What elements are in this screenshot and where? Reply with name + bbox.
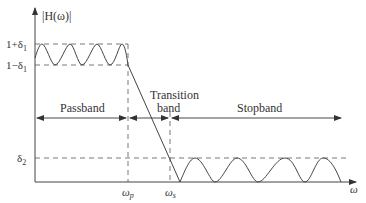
- ws-label: ωs: [165, 186, 176, 200]
- wp-label: ωp: [122, 186, 134, 200]
- upper-pass-label: 1+δ1: [6, 38, 27, 53]
- lower-pass-label: 1−δ1: [6, 59, 27, 74]
- filter-spec-diagram: |H(ω)| 1+δ1 1−δ1 δ2 ωp ωs ω Passband Tra…: [0, 0, 366, 203]
- y-axis-label: |H(ω)|: [42, 9, 71, 23]
- x-axis-label: ω: [350, 183, 358, 195]
- stop-level-label: δ2: [17, 152, 26, 167]
- passband-label: Passband: [60, 101, 105, 115]
- transition-label-line1: Transition: [150, 88, 199, 102]
- transition-label-line2: band: [157, 101, 180, 115]
- stopband-label: Stopband: [237, 101, 282, 115]
